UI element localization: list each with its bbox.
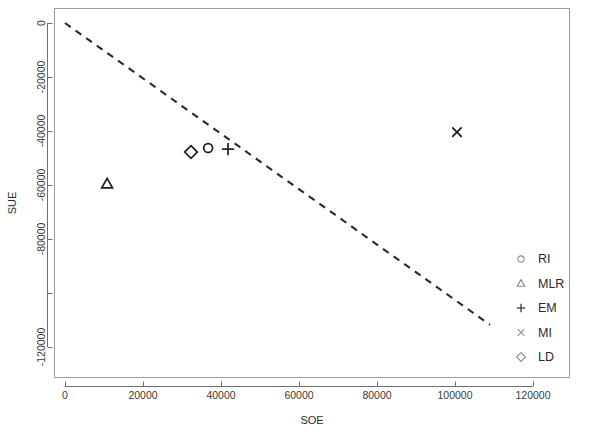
legend-label-ri: RI (538, 252, 551, 266)
y-axis-tick-label: -60000 (35, 168, 47, 201)
y-axis-tick-label: -20000 (35, 60, 47, 93)
legend: RIMLREMMILD (517, 252, 565, 364)
data-point-markers (102, 127, 462, 187)
scatter-plot-figure: 020000400006000080000100000120000 0-2000… (0, 0, 597, 439)
legend-marker-mi (518, 329, 525, 336)
y-axis: 0-20000-40000-60000-80000-120000 (35, 20, 53, 366)
x-axis-title: SOE (300, 414, 323, 426)
marker-circle (518, 256, 524, 262)
legend-label-mi: MI (538, 326, 552, 340)
legend-marker-ld (517, 353, 526, 362)
x-axis-tick-label: 40000 (206, 389, 235, 401)
y-axis-title: SUE (6, 192, 18, 215)
x-axis-tick-label: 60000 (284, 389, 313, 401)
x-axis-tick-label: 120000 (515, 389, 550, 401)
x-axis-tick-label: 80000 (362, 389, 391, 401)
marker-circle (204, 144, 213, 153)
legend-label-mlr: MLR (538, 277, 564, 291)
y-axis-tick-label: -80000 (35, 222, 47, 255)
x-axis: 020000400006000080000100000120000 (62, 382, 551, 402)
plot-canvas: 020000400006000080000100000120000 0-2000… (0, 0, 597, 439)
data-point-ld (185, 146, 198, 159)
x-axis-tick-label: 100000 (437, 389, 472, 401)
plot-frame (55, 9, 570, 378)
data-point-ri (204, 144, 213, 153)
legend-label-em: EM (538, 301, 557, 315)
x-axis-tick-label: 0 (62, 389, 68, 401)
legend-marker-ri (518, 256, 524, 262)
marker-diamond (185, 146, 198, 159)
reference-line (65, 23, 490, 325)
y-axis-tick-label: -120000 (35, 328, 47, 367)
y-axis-tick-label: -40000 (35, 114, 47, 147)
y-axis-tick-label: 0 (35, 20, 47, 26)
reference-trend-line (65, 23, 490, 325)
data-point-em (222, 143, 234, 155)
x-axis-tick-label: 20000 (128, 389, 157, 401)
legend-marker-em (517, 304, 526, 313)
marker-triangle (517, 280, 525, 287)
marker-diamond (517, 353, 526, 362)
legend-label-ld: LD (538, 350, 554, 364)
legend-marker-mlr (517, 280, 525, 287)
marker-triangle (102, 178, 113, 187)
data-point-mlr (102, 178, 113, 187)
data-point-mi (452, 127, 462, 137)
